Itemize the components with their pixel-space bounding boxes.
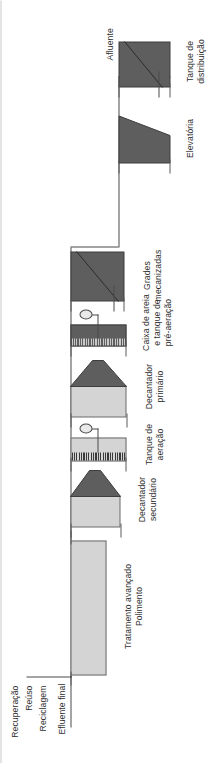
tick-distribuicao-out [169,83,170,97]
tick-aeracao-in [70,457,71,471]
caption-tanque-distribuicao-line2: distribuição [195,25,205,97]
caption-caixa-areia-line3: pré-aeração [162,275,172,369]
unit-grades-mecanizadas [70,251,124,301]
output-label-recuperacao: Recuperação [9,685,19,763]
tick-elevatoria-out [169,159,170,173]
tick-aeracao-out [125,457,126,471]
unit-decantador-primario [70,359,126,417]
distribuicao-weir-line [158,71,159,97]
caption-grades-line1: Grades [141,239,151,311]
grit-blower-pipe [97,314,98,338]
caption-tanque-distribuicao-line1: Tanque de [184,25,194,97]
tick-dec-pri-out [126,413,127,427]
tick-grades-out [123,297,124,311]
caption-tratamento-avancado-line2: Polimento [133,543,143,669]
grades-rake-line [113,285,114,311]
output-label-reuso: Reúso [23,685,33,763]
tick-caixa-areia-out [125,342,126,356]
output-label-reciclagem: Reciclagem [37,685,47,763]
main-flow-line-lower [118,161,119,247]
tick-caixa-areia-in [70,342,71,356]
caption-tratamento-avancado-line1: Tratamento avançado [122,543,132,669]
tick-dec-sec-in [70,523,71,537]
inlet-label-afluente: Afluente [104,2,114,60]
tick-dec-pri-in [70,413,71,427]
aeration-diffuser-hatch [71,452,125,460]
tick-grades-in [70,297,71,311]
unit-tratamento-avancado [70,540,106,675]
unit-elevatoria [118,115,170,163]
unit-decantador-secundario [70,469,120,527]
aeration-blower-icon [79,423,92,433]
tick-elevatoria-in [118,159,119,173]
outlet-label-efluente-final: Efluente final [56,683,66,763]
caption-grades-line2: mecanizadas [152,239,162,311]
tick-distribuicao-in [118,83,119,97]
effluent-branch-line [26,676,71,677]
grit-blower-icon [79,309,92,319]
treatment-plant-diagram: Recuperação Reúso Reciclagem Efluente fi… [0,0,213,763]
tick-dec-sec-out [120,523,121,537]
grit-chamber-hatch [71,338,125,345]
flow-line-riser [70,246,118,247]
unit-tanque-distribuicao [118,41,170,87]
tick-tratamento-in [70,671,71,685]
caption-elevatoria-line1: Elevatória [184,107,194,169]
page-top-rule [0,0,1,763]
aeration-blower-pipe [97,428,98,452]
diagram-canvas: Recuperação Reúso Reciclagem Efluente fi… [0,0,213,763]
